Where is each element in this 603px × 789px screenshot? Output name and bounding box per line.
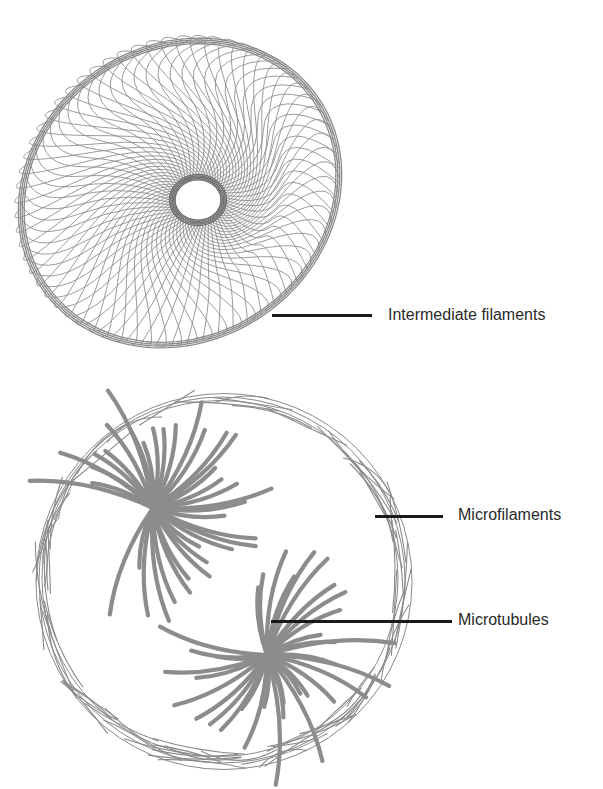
- diagram-artwork: [0, 0, 603, 789]
- cytoskeleton-figure: Intermediate filaments Microfilaments Mi…: [0, 0, 603, 789]
- microfilaments-leader-line: [375, 515, 443, 518]
- intermediate-filaments-leader-line: [272, 314, 372, 317]
- microtubule-aster-lower: [160, 552, 395, 785]
- bottom-cell: [30, 390, 412, 784]
- microtubules-leader-line: [271, 620, 452, 623]
- top-cell-intermediate-filaments: [15, 35, 342, 348]
- microtubules-label: Microtubules: [458, 612, 549, 628]
- intermediate-filaments-label: Intermediate filaments: [388, 307, 545, 323]
- microfilaments-label: Microfilaments: [458, 507, 561, 523]
- microtubule-aster-upper: [30, 391, 272, 621]
